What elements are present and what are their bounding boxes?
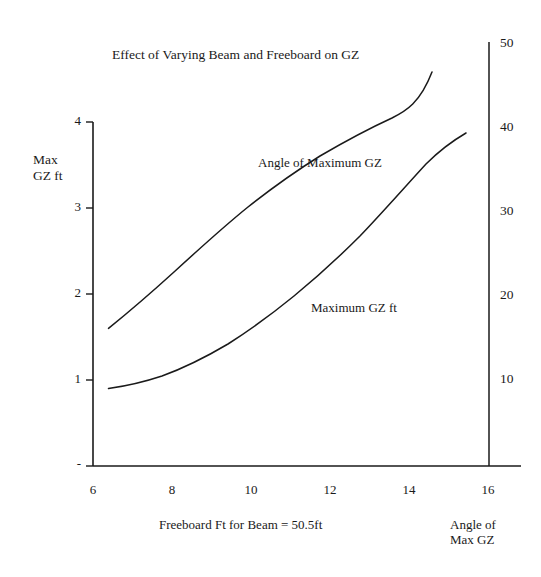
series-annotation-gz: Maximum GZ ft [311, 300, 397, 315]
right-tick-label-40: 40 [500, 119, 514, 135]
right-tick-label-10: 10 [500, 371, 514, 387]
chart-title: Effect of Varying Beam and Freeboard on … [112, 47, 359, 63]
x-tick-label-6: 6 [78, 482, 108, 497]
x-axis-title: Freeboard Ft for Beam = 50.5ft [159, 517, 322, 532]
x-tick-label-12: 12 [315, 482, 345, 497]
right-tick-label-30: 30 [500, 203, 514, 219]
chart-container: Effect of Varying Beam and Freeboard on … [0, 0, 541, 577]
y-tick-label-1: 1 [60, 371, 81, 386]
y-tick-label-0: - [60, 456, 81, 471]
left-axis-ticks [86, 122, 93, 466]
series-annotation-angle: Angle of Maximum GZ [258, 155, 382, 170]
y-tick-label-4: 4 [60, 113, 81, 128]
x-tick-label-10: 10 [236, 482, 266, 497]
right-tick-label-20: 20 [500, 287, 514, 303]
y-tick-label-3: 3 [60, 199, 81, 214]
series-curve-maximum-gz-ft [109, 133, 467, 389]
right-axis-title: Angle of Max GZ [450, 517, 496, 548]
y-axis-title: Max GZ ft [33, 152, 63, 184]
right-tick-label-50: 50 [500, 35, 514, 51]
series-curve-angle-of-maximum-gz [109, 72, 433, 328]
x-tick-label-8: 8 [157, 482, 187, 497]
x-tick-label-14: 14 [394, 482, 424, 497]
y-tick-label-2: 2 [60, 285, 81, 300]
x-tick-label-16: 16 [473, 482, 503, 497]
